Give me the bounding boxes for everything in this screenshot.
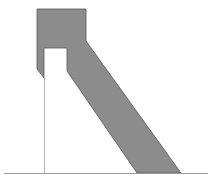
geometric-diagram xyxy=(0,0,222,184)
